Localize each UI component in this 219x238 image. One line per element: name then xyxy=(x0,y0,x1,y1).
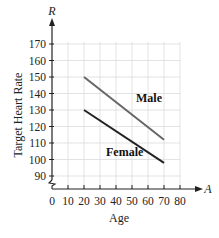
chart-canvas: 9010011012013014015016017001020304050607… xyxy=(0,0,219,238)
x-tick-label: 30 xyxy=(94,195,106,207)
y-axis-break-icon xyxy=(49,180,55,189)
x-tick-label: 60 xyxy=(142,195,154,207)
x-axis-title: Age xyxy=(109,211,129,225)
y-axis-title: Target Heart Rate xyxy=(11,73,25,158)
x-tick-label: 20 xyxy=(78,195,90,207)
x-tick-label: 70 xyxy=(158,195,170,207)
y-tick-label: 120 xyxy=(29,121,47,133)
y-tick-label: 130 xyxy=(29,104,47,116)
y-tick-label: 170 xyxy=(29,38,47,50)
y-axis-variable-label: R xyxy=(47,4,56,18)
female-series-label: Female xyxy=(106,145,144,159)
y-tick-label: 140 xyxy=(29,88,47,100)
x-axis-variable-label: A xyxy=(203,182,212,196)
x-tick-label: 50 xyxy=(126,195,138,207)
male-series-label: Male xyxy=(136,91,163,105)
y-tick-label: 90 xyxy=(35,170,47,182)
x-tick-label: 10 xyxy=(62,195,74,207)
x-axis-arrow-icon xyxy=(195,186,203,192)
x-tick-label: 40 xyxy=(110,195,122,207)
x-tick-label: 80 xyxy=(174,195,186,207)
x-tick-label: 0 xyxy=(49,195,55,207)
y-tick-label: 160 xyxy=(29,55,47,67)
y-tick-label: 100 xyxy=(29,154,47,166)
y-tick-label: 150 xyxy=(29,71,47,83)
y-axis-arrow-icon xyxy=(49,18,55,26)
y-tick-label: 110 xyxy=(29,137,46,149)
male-line xyxy=(84,77,164,140)
